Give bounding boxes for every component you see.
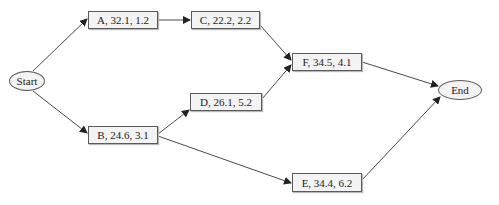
activity-e-label: E, 34.4, 6.2 [302, 177, 353, 189]
activity-f-label: F, 34.5, 4.1 [302, 56, 351, 68]
edge-c-f [260, 25, 291, 60]
activity-b-label: B, 24.6, 3.1 [97, 129, 148, 141]
activity-node-a: A, 32.1, 1.2 [88, 11, 158, 29]
edge-d-f [262, 65, 291, 99]
edge-e-end [362, 97, 440, 180]
activity-c-label: C, 22.2, 2.2 [200, 14, 251, 26]
activity-node-f: F, 34.5, 4.1 [292, 53, 362, 71]
end-label: End [451, 84, 469, 96]
activity-network-diagram: Start End A, 32.1, 1.2 C, 22.2, 2.2 F, 3… [0, 0, 499, 205]
activity-node-c: C, 22.2, 2.2 [191, 11, 260, 29]
activity-d-label: D, 26.1, 5.2 [200, 96, 252, 108]
end-node: End [438, 80, 482, 100]
edge-b-e [158, 136, 291, 183]
start-node: Start [9, 71, 45, 91]
edge-start-a [33, 19, 87, 71]
activity-a-label: A, 32.1, 1.2 [97, 14, 149, 26]
activity-node-b: B, 24.6, 3.1 [88, 126, 158, 144]
edge-b-d [158, 110, 189, 134]
start-label: Start [17, 75, 38, 87]
activity-node-e: E, 34.4, 6.2 [292, 173, 362, 192]
edge-start-b [33, 91, 87, 133]
activity-node-d: D, 26.1, 5.2 [190, 93, 262, 111]
edge-f-end [362, 62, 438, 86]
